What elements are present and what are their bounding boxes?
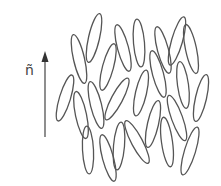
molecule-ellipse xyxy=(190,73,212,122)
molecule-ellipse xyxy=(111,23,134,72)
molecule-ellipse xyxy=(83,12,105,63)
molecule-ellipse xyxy=(151,25,174,74)
molecule-ellipse xyxy=(131,19,146,68)
director-label: ñ xyxy=(25,63,34,77)
molecule-ellipse xyxy=(111,122,126,171)
molecule-ellipse xyxy=(164,94,191,143)
molecule-ellipse xyxy=(165,15,189,66)
arrowhead-icon xyxy=(42,51,49,62)
molecule-ellipse xyxy=(96,42,119,91)
molecule-ellipse xyxy=(130,69,151,117)
molecule-ellipse xyxy=(96,133,119,182)
molecule-ellipse xyxy=(174,61,191,109)
director-arrow xyxy=(42,51,49,137)
molecule-ellipse xyxy=(146,49,169,98)
molecule-ellipse xyxy=(101,76,133,123)
molecule-ellipse xyxy=(121,118,153,166)
nematic-diagram xyxy=(0,0,221,186)
molecule-cluster xyxy=(53,12,212,182)
molecule-ellipse xyxy=(177,125,202,176)
